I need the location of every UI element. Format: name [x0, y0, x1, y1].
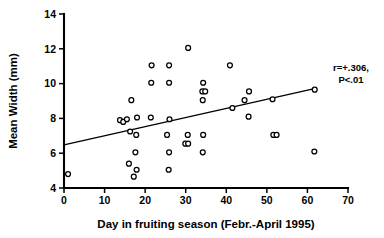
data-point [126, 161, 131, 166]
data-point [230, 106, 235, 111]
data-point [242, 98, 247, 103]
data-points-group [66, 45, 318, 179]
data-point [66, 172, 71, 177]
data-point [134, 132, 139, 137]
data-point [186, 45, 191, 50]
x-tick-label: 20 [139, 194, 151, 206]
data-point [167, 150, 172, 155]
y-axis-title: Mean Width (mm) [7, 53, 19, 149]
data-point [186, 141, 191, 146]
data-point [247, 89, 252, 94]
x-axis-ticks: 010203040506070 [61, 188, 354, 206]
x-axis-title: Day in fruiting season (Febr.-April 1995… [97, 218, 314, 230]
x-tick-label: 10 [99, 194, 111, 206]
data-point [167, 80, 172, 85]
data-point [201, 132, 206, 137]
data-point [149, 80, 154, 85]
x-tick-label: 50 [261, 194, 273, 206]
y-tick-label: 14 [44, 8, 56, 20]
data-point [227, 63, 232, 68]
data-point [167, 63, 172, 68]
chart-canvas: 468101214 010203040506070 Mean Width (mm… [0, 0, 384, 238]
data-point [135, 115, 140, 120]
data-point [246, 114, 251, 119]
x-tick-label: 30 [180, 194, 192, 206]
x-tick-label: 60 [302, 194, 314, 206]
y-tick-label: 4 [50, 182, 56, 194]
y-tick-label: 6 [50, 147, 56, 159]
data-point [200, 150, 205, 155]
data-point [203, 89, 208, 94]
data-point [129, 98, 134, 103]
y-axis-ticks: 468101214 [44, 8, 64, 194]
y-tick-label: 10 [44, 77, 56, 89]
data-point [165, 132, 170, 137]
y-axis-title-group: Mean Width (mm) [7, 53, 19, 149]
correlation-annotation: r=+.306, P<.01 [333, 62, 369, 85]
pvalue-label: P<.01 [338, 74, 364, 85]
axis-group [64, 14, 348, 188]
data-point [124, 117, 129, 122]
data-point [134, 167, 139, 172]
data-point [274, 132, 279, 137]
data-point [131, 174, 136, 179]
scatter-plot-figure: 468101214 010203040506070 Mean Width (mm… [0, 0, 384, 238]
correlation-value-label: r=+.306, [333, 62, 369, 73]
data-point [312, 149, 317, 154]
data-point [166, 167, 171, 172]
x-tick-label: 40 [220, 194, 232, 206]
data-point [167, 117, 172, 122]
data-point [270, 97, 275, 102]
x-tick-label: 0 [61, 194, 67, 206]
data-point [148, 115, 153, 120]
data-point [133, 150, 138, 155]
y-tick-label: 8 [50, 112, 56, 124]
y-tick-label: 12 [44, 43, 56, 55]
data-point [128, 129, 133, 134]
data-point [149, 63, 154, 68]
data-point [200, 98, 205, 103]
data-point [185, 132, 190, 137]
data-point [201, 80, 206, 85]
data-point [312, 87, 317, 92]
x-tick-label: 70 [342, 194, 354, 206]
